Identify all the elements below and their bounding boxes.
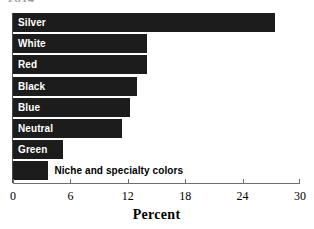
bar-label: Silver xyxy=(18,13,46,32)
bar-chart-figure: 2014 SilverWhiteRedBlackBlueNeutralGreen… xyxy=(0,0,314,229)
clipped-title-remnant: 2014 xyxy=(8,0,34,2)
x-axis-line xyxy=(13,183,300,184)
bar-row: Silver xyxy=(13,13,300,32)
x-tick-label: 6 xyxy=(67,189,73,204)
bar-row: Blue xyxy=(13,98,300,117)
x-tick-label: 12 xyxy=(122,189,134,204)
x-tick-mark xyxy=(128,179,129,184)
bar xyxy=(13,161,48,180)
bar-row: Red xyxy=(13,55,300,74)
bar-label: Niche and specialty colors xyxy=(54,161,183,180)
bar-row: White xyxy=(13,34,300,53)
x-tick-mark xyxy=(299,179,300,184)
bar-label: Neutral xyxy=(18,119,53,138)
x-tick-mark xyxy=(13,179,14,184)
bar xyxy=(13,13,275,32)
x-axis-title: Percent xyxy=(13,207,300,223)
x-tick-label: 24 xyxy=(237,189,249,204)
bar-label: Red xyxy=(18,55,37,74)
plot-area: SilverWhiteRedBlackBlueNeutralGreenNiche… xyxy=(13,13,300,183)
bar-row: Niche and specialty colors xyxy=(13,161,300,180)
bar-label: Green xyxy=(18,140,47,159)
bar-row: Green xyxy=(13,140,300,159)
x-tick-label: 18 xyxy=(179,189,191,204)
bar-row: Black xyxy=(13,77,300,96)
x-tick-mark xyxy=(243,179,244,184)
x-tick-mark xyxy=(185,179,186,184)
x-tick-label: 0 xyxy=(10,189,16,204)
bar-label: Blue xyxy=(18,98,40,117)
bar-label: White xyxy=(18,34,46,53)
x-axis: 0612182430 Percent xyxy=(13,183,300,229)
x-tick-label: 30 xyxy=(294,189,306,204)
bar-row: Neutral xyxy=(13,119,300,138)
x-tick-mark xyxy=(70,179,71,184)
bar-label: Black xyxy=(18,77,45,96)
